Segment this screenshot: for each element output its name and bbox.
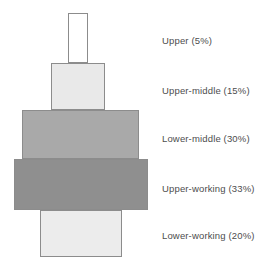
- band-block-lower-middle: [22, 110, 139, 159]
- band-labels-group: Upper (5%) Upper-middle (15%) Lower-midd…: [160, 0, 272, 266]
- stacked-blocks-group: [0, 0, 160, 266]
- band-block-upper-working: [14, 159, 148, 210]
- band-block-upper-middle: [51, 63, 105, 110]
- band-block-upper: [68, 13, 88, 63]
- band-label-lower-working: Lower-working (20%): [162, 230, 272, 241]
- band-label-upper-working: Upper-working (33%): [162, 183, 272, 194]
- band-label-upper-middle: Upper-middle (15%): [162, 85, 272, 96]
- band-label-lower-middle: Lower-middle (30%): [162, 133, 272, 144]
- social-class-diagram: Upper (5%) Upper-middle (15%) Lower-midd…: [0, 0, 272, 266]
- band-block-lower-working: [40, 210, 122, 257]
- band-label-upper: Upper (5%): [162, 35, 272, 46]
